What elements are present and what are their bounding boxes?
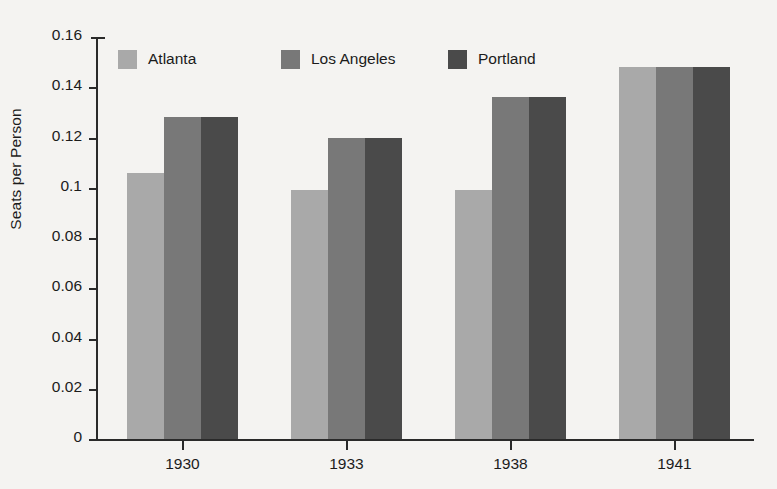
bar[interactable]: [127, 173, 164, 439]
x-axis-tick-mark: [510, 441, 512, 450]
x-axis-tick-label: 1941: [615, 455, 735, 473]
y-axis-tick-label: 0.08: [52, 227, 82, 245]
y-axis-tick-mark: [89, 339, 98, 341]
bar[interactable]: [492, 97, 529, 439]
legend-item[interactable]: Atlanta: [118, 48, 196, 70]
bar[interactable]: [693, 67, 730, 439]
bar[interactable]: [328, 138, 365, 440]
bar[interactable]: [656, 67, 693, 439]
legend-swatch-icon: [281, 50, 300, 69]
x-axis-line: [96, 439, 754, 441]
legend-item[interactable]: Portland: [448, 48, 536, 70]
bar-group: [127, 37, 238, 439]
x-axis-tick-label: 1938: [451, 455, 571, 473]
bar[interactable]: [455, 190, 492, 439]
legend-label: Atlanta: [148, 50, 196, 68]
bar[interactable]: [619, 67, 656, 439]
legend-label: Los Angeles: [311, 50, 395, 68]
y-axis-tick-mark: [89, 138, 98, 140]
x-axis-tick-mark: [674, 441, 676, 450]
bar[interactable]: [164, 117, 201, 439]
bar-group: [291, 37, 402, 439]
y-axis-tick-mark: [89, 389, 98, 391]
y-axis-tick-label: 0.16: [52, 26, 82, 44]
legend-swatch-icon: [448, 50, 467, 69]
y-axis-tick-mark: [89, 188, 98, 190]
y-axis-title: Seats per Person: [7, 69, 25, 269]
bar[interactable]: [201, 117, 238, 439]
bar-group: [619, 37, 730, 439]
legend-label: Portland: [478, 50, 536, 68]
x-axis-tick-label: 1933: [287, 455, 407, 473]
bar-group: [455, 37, 566, 439]
bar[interactable]: [529, 97, 566, 439]
y-axis-tick-label: 0.14: [52, 76, 82, 94]
x-axis-tick-mark: [182, 441, 184, 450]
plot-area: [98, 37, 754, 439]
y-axis-tick-label: 0.06: [52, 277, 82, 295]
bar-chart: Seats per Person 00.020.040.060.080.10.1…: [0, 0, 777, 489]
y-axis-tick-label: 0.02: [52, 378, 82, 396]
bar[interactable]: [365, 138, 402, 440]
x-axis-tick-label: 1930: [123, 455, 243, 473]
y-axis-tick-label: 0.1: [60, 177, 82, 195]
y-axis-tick-label: 0.12: [52, 127, 82, 145]
y-axis-tick-mark: [89, 439, 98, 441]
legend-item[interactable]: Los Angeles: [281, 48, 395, 70]
bar[interactable]: [291, 190, 328, 439]
y-axis-tick-label: 0.04: [52, 328, 82, 346]
legend-swatch-icon: [118, 50, 137, 69]
x-axis-tick-mark: [346, 441, 348, 450]
y-axis-tick-mark: [89, 238, 98, 240]
y-axis-tick-mark: [89, 288, 98, 290]
y-axis-tick-mark: [89, 87, 98, 89]
y-axis-tick-label: 0: [73, 428, 82, 446]
